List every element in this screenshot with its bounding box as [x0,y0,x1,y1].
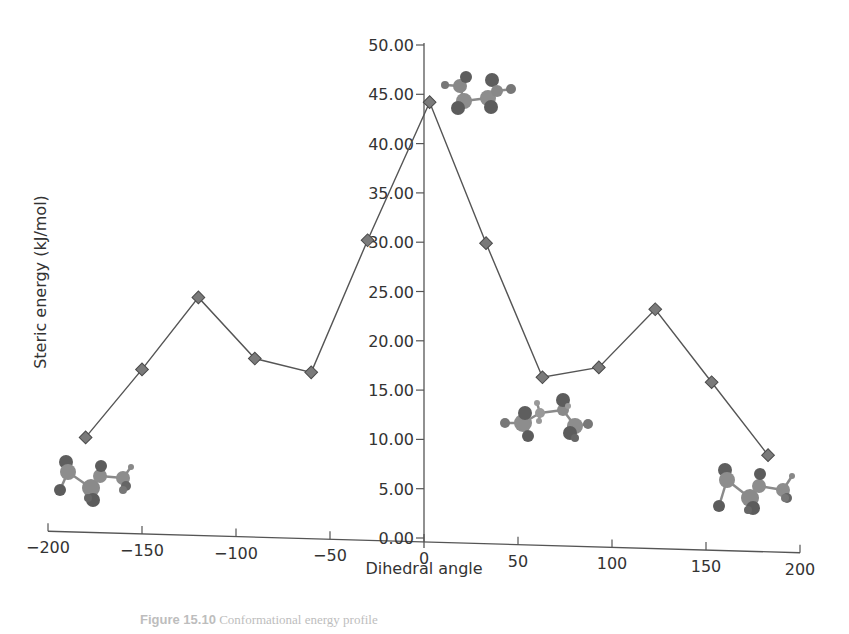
x-tick-label: −50 [313,546,347,565]
atom [506,84,516,94]
x-tick-label: 150 [691,557,722,576]
y-tick-label: 5.00 [378,480,414,499]
x-tick-label: 50 [508,552,528,571]
atom [485,73,499,87]
atom [441,81,449,89]
atom [451,101,465,115]
figure-caption-label: Figure 15.10 [140,612,216,627]
molecule-gauche-icon [500,393,593,442]
atom [535,408,545,418]
atom [571,434,579,442]
x-axis-title: Dihedral angle [365,559,482,578]
atom [781,494,789,502]
data-point-diamond-marker [762,449,775,462]
atom [713,500,725,512]
atom [744,506,752,514]
x-tick-label: −200 [26,538,70,557]
y-tick-label: 15.00 [368,381,414,400]
atom [754,468,766,480]
atom [500,418,510,428]
y-tick-label: 50.00 [368,36,414,55]
x-tick-label: 200 [785,560,816,579]
atom [60,464,76,480]
atom [536,418,542,424]
atom [95,460,107,472]
y-tick-label: 20.00 [368,332,414,351]
data-point-diamond-marker [480,237,493,250]
data-series [79,96,774,462]
figure-caption-text: Conformational energy profile [219,612,378,627]
atom [719,472,735,488]
atom [565,403,571,409]
atom [491,85,503,97]
data-point-diamond-marker [305,366,318,379]
atom [752,479,766,493]
atom [54,484,66,496]
axes: −200−150−100−500501001502000.005.0010.00… [26,36,815,579]
y-tick-label: 0.00 [378,529,414,548]
molecule-eclipsed-icon [441,71,516,115]
atom [583,419,593,429]
data-point-diamond-marker [536,371,549,384]
atom [460,71,472,83]
y-axis-title: Steric energy (kJ/mol) [31,195,50,369]
atom [119,486,127,494]
atom [84,494,92,502]
molecule-anti-left-icon [54,455,134,507]
atom [522,430,534,442]
atom [128,464,134,470]
atom [789,473,795,479]
x-tick-label: −150 [120,541,164,560]
y-tick-label: 25.00 [368,283,414,302]
y-tick-label: 10.00 [368,430,414,449]
x-tick-label: −100 [214,544,258,563]
atom [534,400,540,406]
data-point-diamond-marker [423,96,436,109]
atom [518,406,532,420]
molecule-anti-right-icon [713,463,795,515]
atom [484,100,498,114]
data-point-diamond-marker [705,376,718,389]
figure-caption: Figure 15.10 Conformational energy profi… [140,612,378,628]
chart-canvas: −200−150−100−500501001502000.005.0010.00… [0,0,849,610]
y-tick-label: 45.00 [368,85,414,104]
y-tick-label: 30.00 [368,233,414,252]
x-tick-label: 100 [597,554,628,573]
series-line [86,102,768,455]
